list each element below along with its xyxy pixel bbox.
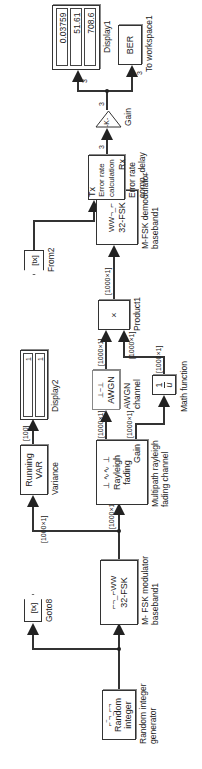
block-text: 32-FSK <box>119 577 129 608</box>
tx-port-label: Tx <box>87 187 97 197</box>
signal-dim-label: [100] <box>22 425 29 441</box>
awgn-caption: AWGN channel <box>123 379 142 409</box>
signal-dim-label: [1000×1] <box>155 346 162 373</box>
display1-value: 51.61 <box>70 9 82 67</box>
signal-dim-label: [1000×1] <box>97 339 104 366</box>
numerator: 1 <box>155 383 165 388</box>
rx-port-label: Rx <box>117 156 127 170</box>
stairs-icon: ⌐‾¬_⌐¬ <box>106 704 113 727</box>
random-integer-generator-block[interactable]: ⌐‾¬_⌐¬ Random integer <box>102 690 136 740</box>
block-text-line1: Random <box>113 698 123 732</box>
display2-value: 1 <box>23 353 33 417</box>
signal-dim-label: [1000×1] <box>97 411 104 438</box>
display1-caption: Display1 <box>103 20 113 53</box>
fsk-modulator-block[interactable]: ⌐¬_⌐WW 32-FSK <box>100 560 138 625</box>
display2-caption: Display2 <box>51 379 61 412</box>
antenna-icon: ⊥ ∿∿ ⊥ <box>102 456 112 488</box>
block-text-line1: Rayleigh <box>112 455 122 490</box>
from2-caption: From2 <box>47 247 57 272</box>
block-text-line2: integer <box>123 701 133 729</box>
to-workspace1-caption: To workspace1 <box>145 15 155 72</box>
block-text-line2: fading <box>122 460 132 485</box>
block-text-line1: Error rate <box>97 163 107 197</box>
block-text-line1: Running <box>24 453 34 487</box>
display2-block: 1 1 <box>20 350 48 420</box>
error-rate-caption: Error rate comp_delay <box>128 152 147 198</box>
block-text: 32-FSK <box>117 202 127 233</box>
fsk-waveform-icon: WW¬_⌐ <box>107 203 117 232</box>
running-var-block[interactable]: Running VAR <box>20 445 48 495</box>
math-function-caption: Math function <box>180 361 190 412</box>
noise-icon: ⊥~⊥ <box>96 382 106 398</box>
from-tag: [tx] <box>30 255 39 270</box>
display1-block: 0.03759 51.61 708.6 <box>52 5 100 70</box>
random-integer-caption: Random integer generator <box>139 684 158 744</box>
goto8-caption: Goto8 <box>45 599 55 622</box>
gain-text: -K- <box>103 118 110 127</box>
to-workspace1-block[interactable]: BER <box>118 25 142 65</box>
signal-width-label: 3 <box>81 79 88 83</box>
variable-name: BER <box>125 36 135 55</box>
awgn-channel-block[interactable]: ⊥~⊥ AWGN <box>92 370 120 410</box>
goto-tag: [tx] <box>29 603 38 614</box>
display1-value: 0.03759 <box>56 9 68 67</box>
from2-block[interactable]: [tx] <box>24 250 44 275</box>
signal-width-label: 3 <box>98 145 105 149</box>
signal-width-label: 3 <box>98 102 105 106</box>
signal-dim-label: [1000×1] <box>108 502 115 529</box>
running-var-caption: Variance <box>51 462 61 495</box>
gain-port-label: Gain <box>132 441 142 463</box>
block-text-line2: VAR <box>34 461 44 479</box>
signal-width-label: 3 <box>136 71 143 75</box>
rayleigh-caption: Multipath rayleigh fading channel <box>151 440 170 507</box>
gain-block[interactable]: -K- <box>95 110 122 128</box>
denominator: u <box>165 383 174 388</box>
multiply-symbol: × <box>109 312 119 317</box>
fsk-waveform-icon: ⌐¬_⌐WW <box>109 576 119 610</box>
rayleigh-fading-block[interactable]: ⊥ ∿∿ ⊥ Rayleigh fading Gain <box>96 440 148 505</box>
display1-value: 708.6 <box>84 9 96 67</box>
gain-caption: Gain <box>124 108 134 126</box>
block-text: AWGN <box>106 376 116 404</box>
product1-caption: Product1 <box>133 297 143 331</box>
signal-dim-label: [1000×1] <box>128 332 135 359</box>
error-rate-calculation-block[interactable]: Tx Error rate calculation Rx <box>88 155 125 200</box>
signal-dim-label: [1000×1] <box>104 268 111 295</box>
block-text-line2: calculation <box>107 159 117 197</box>
goto8-block[interactable]: [tx] <box>24 594 42 622</box>
display2-value: 1 <box>35 353 45 417</box>
math-function-block[interactable]: 1 u <box>152 375 176 395</box>
simulink-diagram: ⌐‾¬_⌐¬ Random integer Random integer gen… <box>0 0 202 769</box>
fsk-modulator-caption: M- FSK modulator baseband1 <box>141 556 160 625</box>
product1-block[interactable]: × <box>98 300 130 330</box>
signal-dim-label: [1000×1] <box>40 516 47 543</box>
signal-dim-label: [1000×1] <box>126 411 133 438</box>
